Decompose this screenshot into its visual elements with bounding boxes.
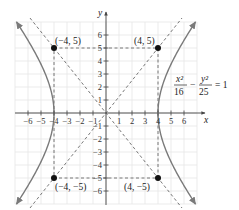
x-tick-label: 1 [117, 116, 121, 126]
eq-num2: y² [200, 74, 208, 84]
x-tick-label: −2 [75, 116, 84, 126]
y-tick-label: 1 [98, 95, 102, 105]
x-tick-label: 2 [130, 116, 134, 126]
point-label: (−4, −5) [55, 182, 86, 193]
y-tick-label: −4 [93, 160, 103, 170]
y-tick-label: −5 [93, 173, 102, 183]
hyperbola-graph: −6−5−4−3−2−1123456 654321−1−2−3−4−5−6 x … [0, 0, 239, 210]
point-4-5 [155, 45, 161, 51]
x-tick-label: −6 [23, 116, 32, 126]
eq-rhs: = 1 [215, 80, 228, 90]
point-label: (−4, 5) [55, 36, 81, 47]
equation: x² 16 − y² 25 = 1 [174, 74, 228, 97]
y-tick-label: 6 [98, 30, 102, 40]
x-tick-label: 4 [156, 116, 161, 126]
point-label: (4, −5) [124, 182, 150, 193]
x-tick-label: −3 [62, 116, 71, 126]
y-tick-label: −6 [93, 186, 102, 196]
y-axis-label: y [97, 8, 103, 18]
y-tick-label: 3 [98, 69, 102, 79]
x-tick-label: −4 [49, 116, 59, 126]
eq-minus: − [190, 80, 195, 90]
point-label: (4, 5) [134, 36, 155, 47]
x-axis-label: x [203, 115, 209, 125]
eq-num1: x² [175, 74, 183, 84]
y-tick-label: −3 [93, 147, 102, 157]
eq-den2: 25 [199, 87, 209, 97]
y-tick-label: −1 [93, 121, 102, 131]
eq-den1: 16 [174, 87, 184, 97]
x-tick-label: −5 [36, 116, 45, 126]
point-neg4-neg5 [51, 175, 57, 181]
x-tick-label: 5 [169, 116, 173, 126]
point-4-neg5 [155, 175, 161, 181]
y-tick-label: 5 [98, 43, 102, 53]
y-tick-label: −2 [93, 134, 102, 144]
y-tick-label: 2 [98, 82, 102, 92]
x-tick-label: 6 [182, 116, 186, 126]
x-tick-label: 3 [143, 116, 147, 126]
